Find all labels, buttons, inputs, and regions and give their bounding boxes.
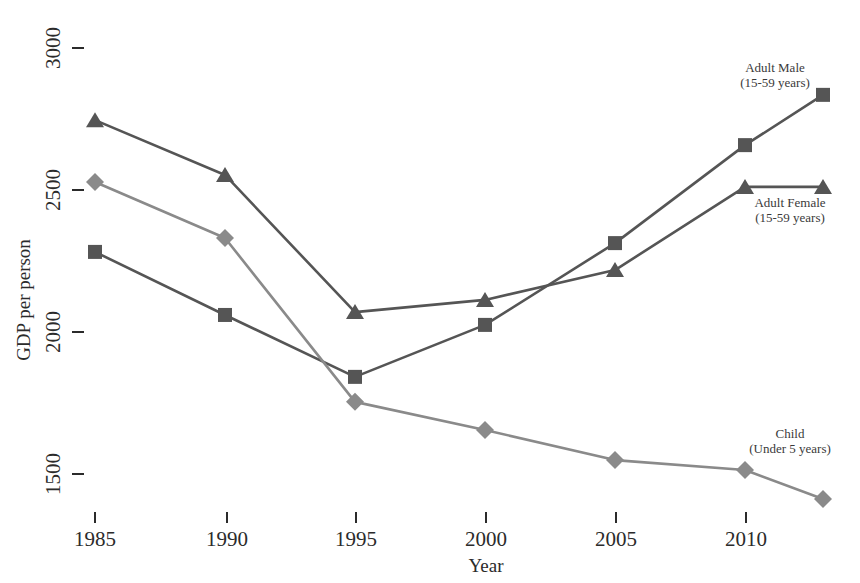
- data-point-square: [348, 370, 362, 384]
- x-tick-label-2000: 2000: [465, 527, 507, 551]
- series-adult-female: [86, 112, 832, 319]
- data-point-triangle: [86, 112, 104, 127]
- series-annotation-adult-male: Adult Male (15-59 years): [740, 60, 810, 90]
- child-sublabel: (Under 5 years): [749, 441, 831, 456]
- series-line: [95, 182, 823, 499]
- line-chart-canvas: 3000 2500 2000 1500 GDP per person 1985 …: [0, 0, 860, 583]
- series-line: [95, 120, 823, 312]
- x-axis-title: Year: [468, 555, 504, 576]
- data-point-triangle: [606, 262, 624, 277]
- data-point-square: [218, 308, 232, 322]
- data-point-diamond: [476, 421, 494, 439]
- child-label: Child: [776, 426, 805, 441]
- data-point-square: [816, 88, 830, 102]
- x-tick-label-1985: 1985: [74, 527, 116, 551]
- y-tick-label-2500: 2500: [41, 169, 65, 211]
- data-point-diamond: [814, 490, 832, 508]
- data-point-diamond: [606, 451, 624, 469]
- data-series-layer: [86, 88, 832, 508]
- x-tick-label-1990: 1990: [206, 527, 248, 551]
- data-point-square: [608, 236, 622, 250]
- y-axis-tick-labels: 3000 2500 2000 1500: [41, 27, 65, 495]
- x-axis-ticks: [95, 512, 746, 523]
- data-point-diamond: [736, 461, 754, 479]
- data-point-square: [478, 318, 492, 332]
- series-child: [86, 173, 832, 508]
- data-point-triangle: [216, 167, 234, 182]
- adult-female-label: Adult Female: [754, 195, 825, 210]
- y-tick-label-2000: 2000: [41, 311, 65, 353]
- adult-female-sublabel: (15-59 years): [755, 210, 825, 225]
- series-adult-male: [88, 88, 830, 384]
- data-point-diamond: [86, 173, 104, 191]
- adult-male-sublabel: (15-59 years): [740, 75, 810, 90]
- series-line: [95, 95, 823, 377]
- series-annotation-child: Child (Under 5 years): [749, 426, 831, 456]
- x-axis-tick-labels: 1985 1990 1995 2000 2005 2010: [74, 527, 767, 551]
- x-tick-label-2010: 2010: [725, 527, 767, 551]
- chart-figure: 3000 2500 2000 1500 GDP per person 1985 …: [0, 0, 860, 583]
- y-axis-title: GDP per person: [13, 239, 34, 361]
- y-tick-label-3000: 3000: [41, 27, 65, 69]
- x-tick-label-2005: 2005: [595, 527, 637, 551]
- y-axis-ticks: [72, 48, 84, 474]
- series-annotation-adult-female: Adult Female (15-59 years): [754, 195, 825, 225]
- adult-male-label: Adult Male: [745, 60, 805, 75]
- y-tick-label-1500: 1500: [41, 453, 65, 495]
- data-point-square: [88, 245, 102, 259]
- data-point-square: [738, 138, 752, 152]
- x-tick-label-1995: 1995: [335, 527, 377, 551]
